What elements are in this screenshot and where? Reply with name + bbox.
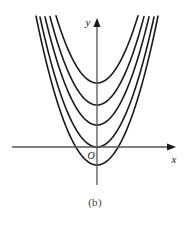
y-axis-arrow-icon [93, 18, 100, 27]
x-axis-label: x [171, 153, 177, 165]
figure-container: y x O (b) [0, 0, 190, 226]
y-axis-label: y [85, 16, 91, 28]
parabola-family-plot: y x O [0, 0, 190, 226]
origin-label: O [87, 150, 94, 161]
x-axis-arrow-icon [167, 143, 176, 150]
figure-caption: (b) [0, 196, 190, 208]
